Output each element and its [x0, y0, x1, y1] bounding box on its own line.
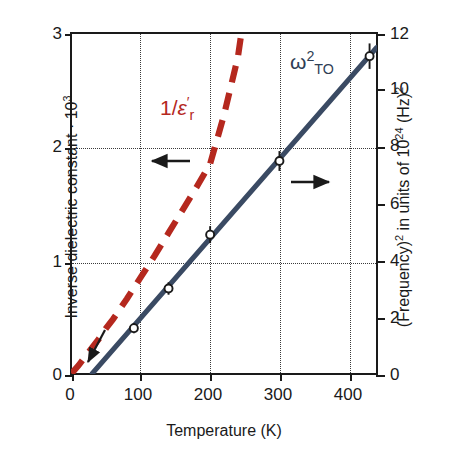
tick-right-0	[376, 375, 385, 377]
tick-right-2	[376, 318, 385, 320]
tick-right-6	[376, 204, 385, 206]
tick-bottom-400	[350, 373, 352, 381]
tick-bottom-0	[72, 373, 74, 381]
tick-label-right-2: 2	[390, 308, 399, 328]
gridline-vertical-100	[140, 34, 141, 373]
tick-label-bottom-100: 100	[124, 385, 152, 405]
omega-label-subscript: TO	[314, 61, 334, 77]
tick-label-right-12: 12	[390, 24, 409, 44]
tick-bottom-100	[140, 373, 142, 381]
tick-right-10	[376, 89, 385, 91]
gridline-vertical-400	[350, 34, 351, 373]
y-axis-right-title-exp1: 2	[393, 235, 405, 241]
tick-label-bottom-200: 200	[194, 385, 222, 405]
tick-left-1	[65, 263, 72, 265]
omega-label-symbol: ω	[290, 50, 306, 73]
curve-label-omega-to: ω2TO	[290, 50, 334, 74]
tick-left-2	[65, 148, 72, 150]
curve-label-inverse-dielectric: 1/ε′r	[160, 96, 194, 120]
figure-container: Inverse dielectric constant · 103 (Frequ…	[0, 0, 459, 453]
tick-label-left-1: 1	[53, 252, 62, 272]
tick-label-bottom-400: 400	[334, 385, 362, 405]
tick-label-left-0: 0	[53, 365, 62, 385]
tick-right-8	[376, 147, 385, 149]
tick-bottom-200	[210, 373, 212, 381]
gridline-vertical-200	[210, 34, 211, 373]
plot-area	[70, 32, 378, 375]
eps-label-symbol: ε	[178, 96, 187, 119]
tick-bottom-300	[280, 373, 282, 381]
eps-label-numerator: 1/	[160, 96, 178, 119]
tick-left-0	[65, 375, 72, 377]
gridline-vertical-300	[280, 34, 281, 373]
tick-right-12	[376, 34, 385, 36]
tick-left-3	[65, 34, 72, 36]
gridline-horizontal-2	[72, 148, 376, 149]
tick-label-right-6: 6	[390, 194, 399, 214]
eps-label-subscript: r	[189, 107, 194, 123]
tick-label-bottom-300: 300	[264, 385, 292, 405]
tick-label-left-2: 2	[53, 137, 62, 157]
tick-label-left-3: 3	[53, 24, 62, 44]
x-axis-title: Temperature (K)	[70, 422, 378, 440]
tick-label-right-8: 8	[390, 136, 399, 156]
tick-label-right-4: 4	[390, 251, 399, 271]
tick-label-bottom-0: 0	[65, 385, 74, 405]
tick-label-right-0: 0	[390, 365, 399, 385]
gridline-horizontal-1	[72, 263, 376, 264]
tick-label-right-10: 10	[390, 79, 409, 99]
tick-right-4	[376, 261, 385, 263]
